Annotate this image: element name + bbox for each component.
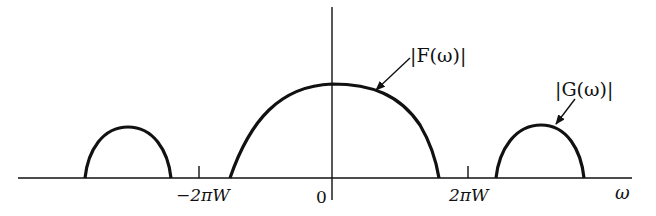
left-replica-lobe [85,127,171,178]
omega-axis-label: ω [615,182,630,203]
g-label-arrow [556,99,575,124]
f-omega-curve [230,84,439,178]
tick-label-zero: 0 [316,187,327,207]
f-label-arrow [376,58,410,90]
g-omega-curve [496,125,584,178]
f-omega-label: |F(ω)| [410,44,466,67]
tick-label-pos-2piW: 2πW [448,185,490,205]
tick-label-neg-2piW: −2πW [176,185,231,205]
spectrum-diagram: |F(ω)| |G(ω)| −2πW 0 2πW ω [0,0,656,216]
g-omega-label: |G(ω)| [555,78,613,101]
